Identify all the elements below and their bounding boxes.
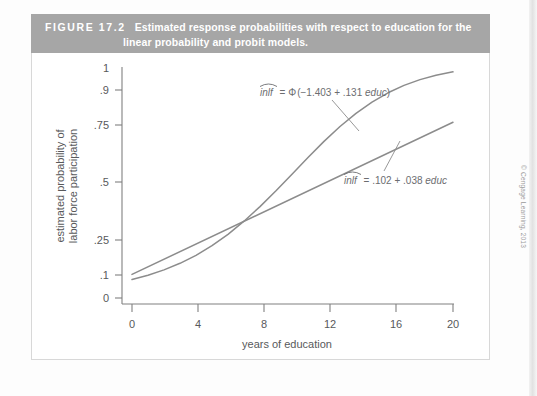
x-tick-label-0: 0 — [129, 318, 135, 330]
x-tick-marks — [132, 304, 453, 312]
x-axis-title: years of education — [242, 338, 332, 350]
x-tick-label-20: 20 — [447, 318, 459, 330]
y-tick-label-0.9: .9 — [100, 84, 109, 96]
y-tick-labels: 1 .9 .75 .5 .25 .1 0 — [94, 62, 109, 304]
copyright-notice: © Cengage Learning, 2013 — [520, 165, 527, 248]
figure-body: 1 .9 .75 .5 .25 .1 0 — [31, 53, 490, 360]
lpm-eq-lhs: inlf — [344, 175, 358, 186]
probit-eq-lhs: inlf — [260, 87, 274, 98]
lpm-leader-line — [384, 141, 400, 171]
x-tick-label-12: 12 — [324, 318, 336, 330]
figure-number: FIGURE 17.2 — [45, 21, 126, 33]
probit-leader-line — [332, 100, 359, 131]
x-tick-label-16: 16 — [390, 318, 402, 330]
y-axis-title-line-1: estimated probability of — [54, 129, 66, 243]
y-tick-label-0.5: .5 — [100, 176, 109, 188]
chart-canvas: 1 .9 .75 .5 .25 .1 0 — [32, 53, 491, 360]
y-tick-label-0.1: .1 — [100, 269, 109, 281]
y-tick-label-0.75: .75 — [94, 119, 109, 131]
probit-equation-text: inlf = Φ(−1.403 + .131 educ) — [260, 87, 390, 98]
y-axis-title-line-2: labor force participation — [67, 129, 79, 243]
scan-gutter — [529, 0, 537, 396]
y-axis-title: estimated probability of labor force par… — [54, 129, 79, 244]
y-tick-label-0: 0 — [103, 292, 109, 304]
figure-caption-line-1: Estimated response probabilities with re… — [135, 21, 472, 33]
series-lpm-line — [132, 122, 453, 274]
x-tick-labels: 0 4 8 12 16 20 — [129, 318, 459, 330]
y-tick-label-1: 1 — [103, 62, 109, 74]
lpm-equation-text: inlf = .102 + .038 educ — [344, 175, 447, 186]
y-tick-marks — [115, 90, 122, 298]
y-tick-label-0.25: .25 — [94, 234, 109, 246]
x-tick-label-4: 4 — [195, 318, 201, 330]
lpm-equation-annotation: inlf = .102 + .038 educ — [344, 141, 447, 186]
x-tick-label-8: 8 — [261, 318, 267, 330]
figure-caption-line-2: linear probability and probit models. — [45, 35, 478, 50]
figure-header-bar: FIGURE 17.2Estimated response probabilit… — [31, 14, 490, 53]
figure-header-line-1: FIGURE 17.2Estimated response probabilit… — [45, 20, 478, 35]
figure-17-2: FIGURE 17.2Estimated response probabilit… — [31, 14, 490, 360]
probit-equation-annotation: inlf = Φ(−1.403 + .131 educ) — [260, 84, 390, 131]
